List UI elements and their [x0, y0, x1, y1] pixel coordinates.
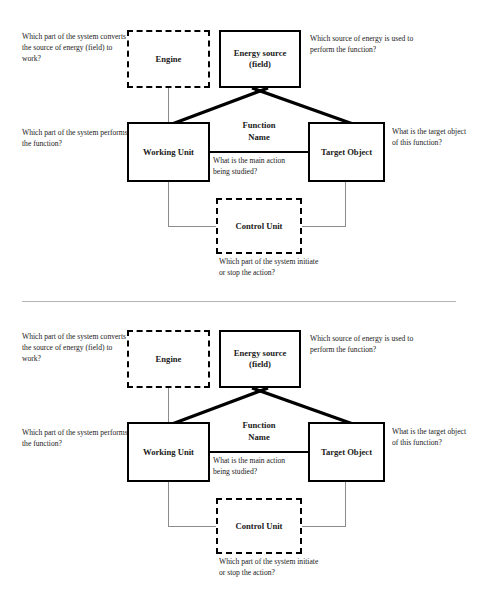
box-control-unit[interactable]: Control Unit [216, 498, 302, 554]
box-working-unit[interactable]: Working Unit [127, 422, 210, 482]
box-engine[interactable]: Engine [127, 30, 210, 88]
box-control-unit-label: Control Unit [236, 221, 283, 232]
box-working-unit-label: Working Unit [143, 147, 194, 158]
annotation-working-question: Which part of the system performs the fu… [22, 427, 132, 449]
center-label-function-name: Function Name [210, 420, 308, 443]
center-label-line2: Name [248, 432, 269, 442]
center-label-line1: Function [243, 120, 276, 130]
connector-target-object-to-control-unit-vertical [345, 182, 346, 227]
box-engine-label: Engine [156, 54, 182, 65]
box-target-object-label: Target Object [321, 147, 372, 158]
box-energy-source-label: Energy source (field) [234, 348, 287, 369]
annotation-control-question: Which part of the system initiate or sto… [219, 556, 319, 578]
center-label-line2: Name [248, 132, 269, 142]
box-working-unit-label: Working Unit [143, 447, 194, 458]
annotation-energy-question: Which source of energy is used to perfor… [310, 333, 422, 355]
connector-working-unit-to-control-unit-vertical [168, 182, 169, 227]
box-energy-source-line2: (field) [249, 59, 271, 69]
box-energy-source-line1: Energy source [234, 348, 287, 358]
box-working-unit[interactable]: Working Unit [127, 122, 210, 182]
connector-working-unit-to-target-object [208, 151, 310, 153]
connector-target-object-to-control-unit-horizontal [300, 226, 346, 227]
box-control-unit[interactable]: Control Unit [216, 198, 302, 254]
annotation-action-question: What is the main action being studied? [213, 155, 303, 177]
connector-working-unit-to-control-unit-horizontal [168, 526, 218, 527]
box-engine-label: Engine [156, 354, 182, 365]
annotation-control-question: Which part of the system initiate or sto… [219, 256, 319, 278]
box-engine[interactable]: Engine [127, 330, 210, 388]
diagram-page: Which part of the system converts the so… [0, 0, 478, 597]
center-label-function-name: Function Name [210, 120, 308, 143]
box-energy-source[interactable]: Energy source (field) [219, 30, 301, 88]
box-energy-source[interactable]: Energy source (field) [219, 330, 301, 388]
box-target-object-label: Target Object [321, 447, 372, 458]
annotation-engine-question: Which part of the system converts the so… [22, 31, 127, 65]
annotation-target-question: What is the target object of this functi… [392, 126, 470, 148]
center-label-line1: Function [243, 420, 276, 430]
connector-working-unit-to-control-unit-vertical [168, 482, 169, 527]
diagram-panel-top: Which part of the system converts the so… [0, 0, 478, 297]
box-control-unit-label: Control Unit [236, 521, 283, 532]
connector-working-unit-to-control-unit-horizontal [168, 226, 218, 227]
annotation-target-question: What is the target object of this functi… [392, 426, 470, 448]
annotation-engine-question: Which part of the system converts the so… [22, 331, 127, 365]
annotation-energy-question: Which source of energy is used to perfor… [310, 33, 422, 55]
box-energy-source-line2: (field) [249, 359, 271, 369]
connector-working-unit-to-target-object [208, 451, 310, 453]
box-energy-source-label: Energy source (field) [234, 48, 287, 69]
annotation-working-question: Which part of the system performs the fu… [22, 127, 132, 149]
annotation-action-question: What is the main action being studied? [213, 455, 303, 477]
connector-target-object-to-control-unit-horizontal [300, 526, 346, 527]
box-energy-source-line1: Energy source [234, 48, 287, 58]
box-target-object[interactable]: Target Object [308, 422, 385, 482]
diagram-panel-bottom: Which part of the system converts the so… [0, 300, 478, 597]
box-target-object[interactable]: Target Object [308, 122, 385, 182]
connector-target-object-to-control-unit-vertical [345, 482, 346, 527]
